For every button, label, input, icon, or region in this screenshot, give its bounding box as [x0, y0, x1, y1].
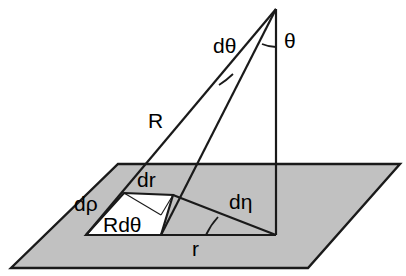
label-R: R	[148, 109, 163, 132]
label-d-eta: dη	[229, 190, 252, 213]
ground-plane	[11, 164, 400, 268]
label-d-theta: dθ	[213, 34, 236, 57]
angle-arc-theta	[262, 44, 276, 47]
label-r: r	[192, 237, 199, 260]
label-R-d-theta: Rdθ	[103, 213, 142, 236]
diagram-canvas: dθ θ R dr dρ Rdθ dη r	[0, 0, 406, 276]
label-d-rho: dρ	[74, 192, 98, 215]
label-theta: θ	[284, 29, 296, 52]
label-dr: dr	[137, 168, 156, 191]
geometry-figure: dθ θ R dr dρ Rdθ dη r	[0, 0, 406, 276]
